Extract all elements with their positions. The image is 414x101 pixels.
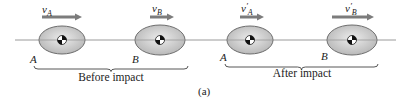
before-impact-group: AvABvBBefore impact — [29, 2, 188, 84]
body-a-before: AvA — [29, 3, 85, 65]
center-of-mass-icon — [348, 36, 357, 45]
velocity-label-a: v′A — [241, 1, 253, 17]
velocity-label-b: vB — [152, 2, 162, 17]
body-b-after: Bv′B — [321, 1, 377, 62]
body-label-b: B — [321, 50, 328, 62]
impact-diagram: AvABvBBefore impact Av′ABv′BAfter impact… — [0, 0, 414, 101]
center-of-mass-icon — [58, 36, 67, 45]
body-a-after: Av′A — [219, 1, 273, 63]
velocity-label-b: v′B — [345, 1, 357, 17]
figure-caption: (a) — [198, 85, 211, 98]
center-of-mass-icon — [246, 36, 255, 45]
body-label-a: A — [219, 51, 227, 63]
center-of-mass-icon — [156, 36, 165, 45]
after-impact-label: After impact — [273, 67, 332, 80]
body-label-b: B — [132, 53, 139, 65]
velocity-arrow-icon — [150, 14, 174, 21]
body-b-before: BvB — [132, 2, 185, 65]
before-impact-label: Before impact — [78, 71, 144, 84]
body-label-a: A — [29, 53, 37, 65]
